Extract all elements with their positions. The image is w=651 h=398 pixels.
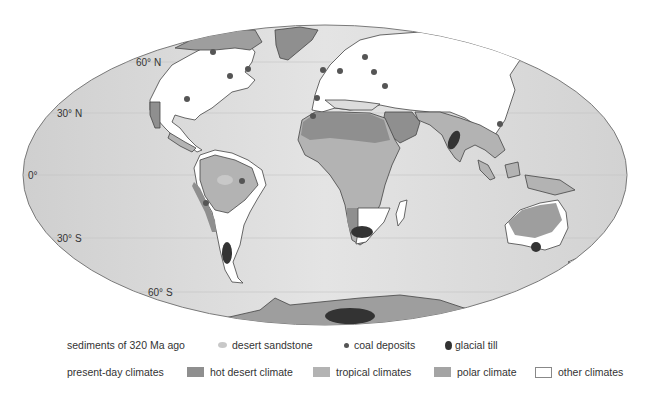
legend-label: tropical climates [336, 366, 411, 378]
legend-item-hot-desert: hot desert climate [187, 366, 293, 378]
legend-sediments-row: sediments of 320 Ma ago [67, 339, 185, 351]
other-climates-swatch-icon [535, 367, 552, 378]
latitude-label-60n: 60° N [136, 57, 161, 68]
desert-sandstone-deposits [217, 175, 233, 185]
tropical-swatch-icon [313, 367, 330, 377]
latitude-label-30n: 30° N [57, 108, 82, 119]
latitude-label-60s: 60° S [148, 287, 173, 298]
latitude-label-30s: 30° S [57, 233, 82, 244]
legend-label: hot desert climate [210, 366, 293, 378]
glacial-till-south-america [222, 242, 232, 264]
legend-sediments-title: sediments of 320 Ma ago [67, 339, 185, 351]
small-dark-dot-icon [344, 343, 349, 348]
legend-climates-row: present-day climates [67, 366, 164, 378]
legend-item-glacial-till: glacial till [445, 339, 498, 351]
latitude-label-0: 0° [28, 170, 38, 181]
glacial-till-antarctica [325, 308, 375, 324]
legend-label: polar climate [457, 366, 517, 378]
legend-label: desert sandstone [232, 339, 313, 351]
glacial-till-australia [531, 242, 541, 252]
legend-item-desert-sandstone: desert sandstone [218, 339, 313, 351]
canadian-arctic-polar [175, 30, 262, 50]
legend-item-coal-deposits: coal deposits [344, 339, 415, 351]
legend-label: glacial till [455, 339, 498, 351]
legend-item-tropical: tropical climates [313, 366, 411, 378]
legend-label: coal deposits [354, 339, 415, 351]
legend-label: other climates [558, 366, 623, 378]
dark-oval-icon [445, 341, 452, 350]
legend-climates-title: present-day climates [67, 366, 164, 378]
light-dot-icon [218, 342, 227, 348]
glacial-till-africa [351, 226, 373, 238]
hot-desert-swatch-icon [187, 367, 204, 377]
legend-item-other: other climates [535, 366, 623, 378]
polar-swatch-icon [434, 367, 451, 377]
legend-item-polar: polar climate [434, 366, 517, 378]
